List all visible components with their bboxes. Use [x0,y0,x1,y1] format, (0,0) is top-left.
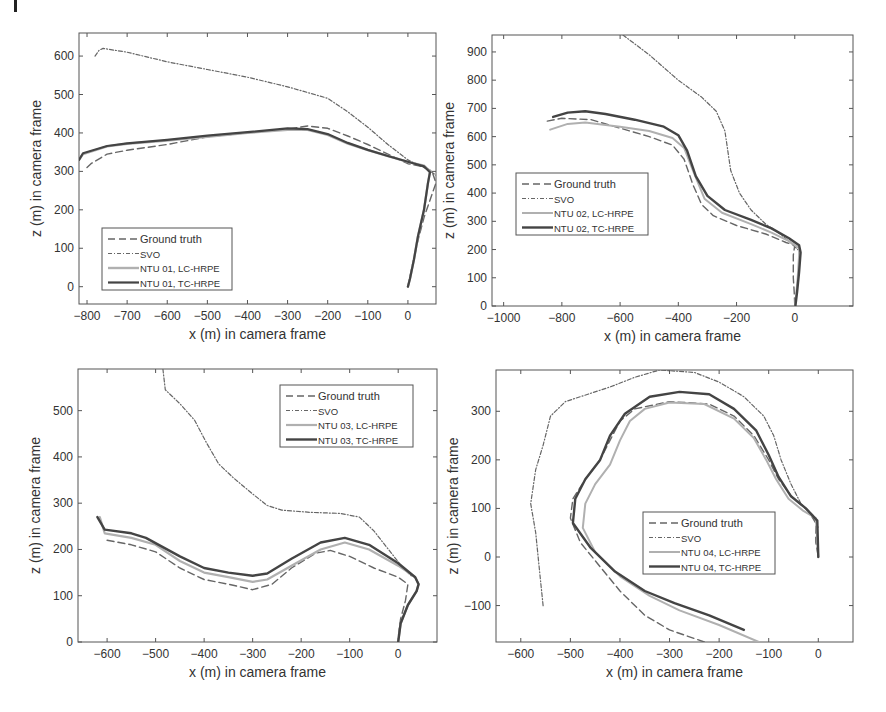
chart-panel-bottom-right: −600−500−400−300−200−1000−1000100200300x… [445,370,853,680]
legend: Ground truthSVONTU 04, LC-HRPENTU 04, TC… [643,512,775,574]
x-tick-label: 0 [405,309,412,323]
legend-entry: SVO [140,249,160,260]
y-tick-label: 900 [467,45,487,59]
plot-area [496,370,853,642]
x-tick-label: −400 [606,647,633,661]
x-tick-label: −800 [548,311,575,325]
legend: Ground truthSVONTU 03, LC-HRPENTU 03, TC… [280,385,413,447]
y-axis-label: z (m) in camera frame [28,100,44,237]
y-tick-label: 0 [484,550,491,564]
legend: Ground truthSVONTU 02, LC-HRPENTU 02, TC… [516,173,648,235]
legend-entry: SVO [318,406,338,417]
trajectory-comparison-figure: −800−700−600−500−400−300−200−10000100200… [0,0,886,712]
y-tick-label: 100 [467,271,487,285]
x-tick-label: −300 [239,647,266,661]
y-tick-label: 600 [467,130,487,144]
legend-entry: Ground truth [140,233,202,245]
x-tick-label: −1000 [487,311,521,325]
x-tick-label: −200 [706,647,733,661]
y-tick-label: 100 [53,589,73,603]
x-tick-label: −200 [314,309,341,323]
chart-panel-top-right: −1000−800−600−400−2000010020030040050060… [441,35,853,344]
y-tick-label: 300 [467,214,487,228]
legend-entry: Ground truth [318,390,380,402]
y-tick-label: 100 [471,501,491,515]
y-axis-label: z (m) in camera frame [445,437,461,574]
x-tick-label: −600 [507,647,534,661]
legend-entry: NTU 01, LC-HRPE [140,263,220,274]
y-tick-label: 500 [53,404,73,418]
x-axis-label: x (m) in camera frame [189,326,326,342]
x-tick-label: 0 [815,647,822,661]
x-tick-label: −600 [94,647,121,661]
x-tick-label: −500 [142,647,169,661]
y-tick-label: 700 [467,101,487,115]
x-tick-label: 0 [791,311,798,325]
x-axis-label: x (m) in camera frame [189,664,326,680]
legend-entry: NTU 04, LC-HRPE [681,547,761,558]
x-tick-label: −300 [274,309,301,323]
x-tick-label: 0 [395,647,402,661]
x-tick-label: −400 [234,309,261,323]
y-tick-label: −100 [464,599,491,613]
legend-entry: NTU 03, LC-HRPE [318,420,398,431]
x-axis-label: x (m) in camera frame [606,664,743,680]
y-tick-label: 500 [54,88,74,102]
x-tick-label: −800 [74,309,101,323]
y-tick-label: 300 [54,164,74,178]
y-axis-label: z (m) in camera frame [27,437,43,574]
legend-entry: Ground truth [554,178,616,190]
legend-entry: NTU 02, TC-HRPE [554,223,634,234]
y-tick-label: 600 [54,49,74,63]
y-tick-label: 300 [471,404,491,418]
y-axis-label: z (m) in camera frame [441,102,457,239]
x-tick-label: −500 [557,647,584,661]
legend-entry: SVO [681,533,701,544]
y-tick-label: 200 [471,453,491,467]
y-tick-label: 200 [54,203,74,217]
y-tick-label: 300 [53,496,73,510]
x-tick-label: −200 [723,311,750,325]
y-tick-label: 400 [467,186,487,200]
legend-entry: NTU 04, TC-HRPE [681,562,761,573]
x-tick-label: −700 [114,309,141,323]
y-tick-label: 400 [53,450,73,464]
y-tick-label: 100 [54,241,74,255]
x-tick-label: −300 [656,647,683,661]
chart-panel-bottom-left: −600−500−400−300−200−1000010020030040050… [27,369,437,680]
legend-entry: Ground truth [681,517,743,529]
legend-entry: NTU 01, TC-HRPE [140,278,220,289]
x-tick-label: −600 [607,311,634,325]
y-tick-label: 0 [67,280,74,294]
y-tick-label: 400 [54,126,74,140]
y-tick-label: 0 [66,635,73,649]
x-tick-label: −200 [288,647,315,661]
x-tick-label: −100 [755,647,782,661]
y-tick-label: 200 [467,243,487,257]
x-tick-label: −100 [336,647,363,661]
x-tick-label: −600 [154,309,181,323]
y-tick-label: 200 [53,542,73,556]
chart-panel-top-left: −800−700−600−500−400−300−200−10000100200… [28,33,436,342]
y-tick-label: 0 [480,299,487,313]
x-tick-label: −500 [194,309,221,323]
x-tick-label: −400 [191,647,218,661]
legend: Ground truthSVONTU 01, LC-HRPENTU 01, TC… [102,228,232,290]
y-tick-label: 800 [467,73,487,87]
x-axis-label: x (m) in camera frame [604,328,741,344]
y-tick-label: 500 [467,158,487,172]
x-tick-label: −100 [354,309,381,323]
legend-entry: SVO [554,194,574,205]
legend-entry: NTU 03, TC-HRPE [318,435,398,446]
x-tick-label: −400 [665,311,692,325]
legend-entry: NTU 02, LC-HRPE [554,208,634,219]
